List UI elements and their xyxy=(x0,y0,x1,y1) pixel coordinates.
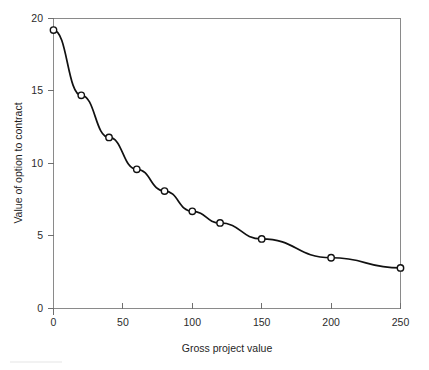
series-markers xyxy=(50,27,403,271)
x-tick-label: 250 xyxy=(392,316,410,328)
y-axis-title: Value of option to contract xyxy=(12,102,24,223)
y-axis-tick-labels: 20 15 10 5 0 xyxy=(31,12,43,314)
data-point xyxy=(397,265,403,271)
x-tick-label: 200 xyxy=(322,316,340,328)
x-tick-label: 0 xyxy=(51,316,57,328)
y-tick-label: 15 xyxy=(31,84,43,96)
x-tick-label: 50 xyxy=(117,316,129,328)
x-axis-tick-labels: 0 50 100 150 200 250 xyxy=(51,316,410,328)
y-tick-label: 20 xyxy=(31,12,43,24)
chart-figure: 20 15 10 5 0 0 50 100 150 200 250 Gross … xyxy=(0,0,429,370)
x-tick-label: 150 xyxy=(253,316,271,328)
data-point xyxy=(134,166,140,172)
data-point xyxy=(189,208,195,214)
data-point xyxy=(217,220,223,226)
data-point xyxy=(106,134,112,140)
data-point xyxy=(50,27,56,33)
series-line xyxy=(54,30,401,268)
line-chart: 20 15 10 5 0 0 50 100 150 200 250 Gross … xyxy=(0,0,429,370)
y-axis-ticks xyxy=(48,19,54,309)
data-point xyxy=(78,92,84,98)
plot-frame xyxy=(54,19,401,309)
data-point xyxy=(328,255,334,261)
x-axis-title: Gross project value xyxy=(182,342,273,354)
data-point xyxy=(161,188,167,194)
y-tick-label: 10 xyxy=(31,157,43,169)
data-point xyxy=(259,236,265,242)
page-artifact xyxy=(10,361,62,363)
y-tick-label: 0 xyxy=(37,302,43,314)
y-tick-label: 5 xyxy=(37,229,43,241)
x-tick-label: 100 xyxy=(184,316,202,328)
data-series xyxy=(50,27,403,271)
